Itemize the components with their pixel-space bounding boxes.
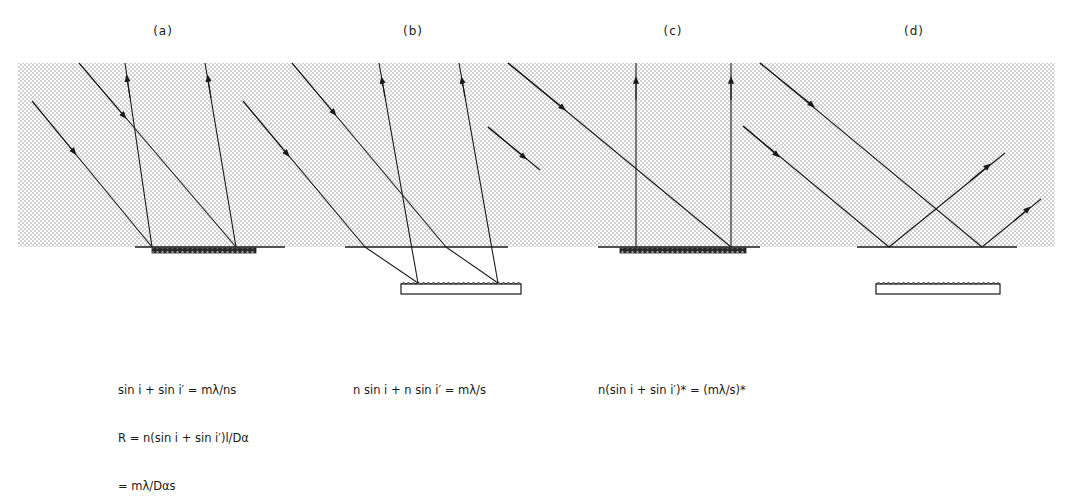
panel-b-equations: n sin i + n sin i′ = mλ/s: [353, 350, 486, 414]
panel-a-immersed-grating: [152, 248, 256, 253]
immersion-medium-region: [18, 63, 1055, 247]
panel-label-a: (a): [153, 24, 173, 38]
panel-a-resolving-power-result: = mλ/Dαs: [118, 478, 249, 494]
panel-label-c: (c): [664, 24, 683, 38]
panel-b-external-grating: [401, 284, 521, 294]
panel-label-b: (b): [403, 24, 423, 38]
panel-d-external-grating: [876, 284, 1000, 294]
panel-b-grating-equation: n sin i + n sin i′ = mλ/s: [353, 382, 486, 398]
panel-a-resolving-power-equation: R = n(sin i + sin i′)l/Dα: [118, 430, 249, 446]
panel-a-grating-equation: sin i + sin i′ = mλ/ns: [118, 382, 249, 398]
panel-c-immersed-grating: [620, 248, 746, 253]
panel-c-equations: n(sin i + sin i′)* = (mλ/s)*: [598, 350, 746, 414]
panel-c-grating-equation: n(sin i + sin i′)* = (mλ/s)*: [598, 382, 746, 398]
panel-label-d: (d): [904, 24, 924, 38]
panel-a-equations: sin i + sin i′ = mλ/ns R = n(sin i + sin…: [118, 350, 249, 496]
